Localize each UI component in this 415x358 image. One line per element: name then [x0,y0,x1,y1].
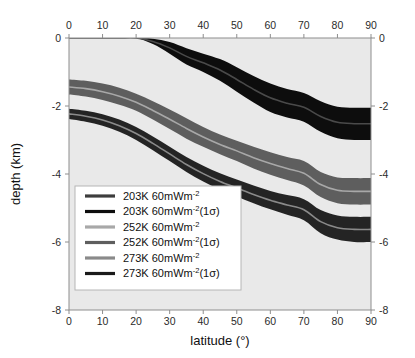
legend-label-3: 252K 60mWm-2(1σ) [123,235,220,248]
y-tick-label-left: -2 [52,100,61,112]
y-tick-label-right: -8 [379,304,388,316]
x-tick-label-bottom: 20 [130,315,142,327]
x-tick-label-top: 20 [130,19,142,31]
x-tick-label-top: 80 [332,19,344,31]
y-tick-label-left: -8 [52,304,61,316]
y-axis-title: depth (km) [8,143,23,205]
y-tick-label-right: 0 [379,32,385,44]
x-tick-label-bottom: 50 [231,315,243,327]
legend-label-4: 273K 60mWm-2 [123,251,199,264]
y-tick-label-left: -4 [52,168,61,180]
legend-label-0: 203K 60mWm-2 [123,189,199,202]
x-tick-label-bottom: 60 [264,315,276,327]
legend-label-5: 273K 60mWm-2(1σ) [123,266,220,279]
x-tick-label-bottom: 40 [197,315,209,327]
x-tick-label-top: 70 [298,19,310,31]
x-tick-label-top: 50 [231,19,243,31]
y-tick-label-right: -2 [379,100,388,112]
x-tick-label-top: 90 [365,19,377,31]
x-tick-label-bottom: 30 [164,315,176,327]
x-tick-label-bottom: 10 [97,315,109,327]
y-tick-label-left: 0 [55,32,61,44]
legend-label-2: 252K 60mWm-2 [123,220,199,233]
x-axis-title: latitude (°) [190,333,249,348]
x-tick-label-bottom: 0 [66,315,72,327]
x-tick-label-top: 30 [164,19,176,31]
y-tick-label-right: -4 [379,168,388,180]
y-tick-label-right: -6 [379,236,388,248]
x-tick-label-top: 10 [97,19,109,31]
chart-figure: 010203040506070809001020304050607080900-… [0,0,415,358]
legend: 203K 60mWm-2203K 60mWm-2(1σ)252K 60mWm-2… [75,186,241,290]
x-tick-label-top: 60 [264,19,276,31]
y-tick-label-left: -6 [52,236,61,248]
x-tick-label-bottom: 90 [365,315,377,327]
x-tick-label-bottom: 70 [298,315,310,327]
x-tick-label-top: 0 [66,19,72,31]
x-tick-label-top: 40 [197,19,209,31]
x-tick-label-bottom: 80 [332,315,344,327]
depth-latitude-plot: 010203040506070809001020304050607080900-… [0,0,415,358]
legend-label-1: 203K 60mWm-2(1σ) [123,204,220,217]
